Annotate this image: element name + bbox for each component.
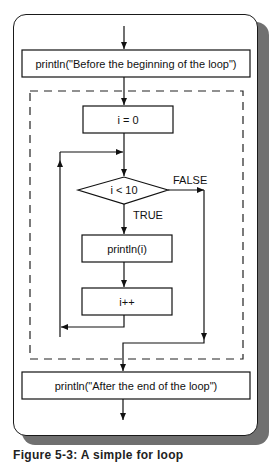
node-before-label: println("Before the beginning of the loo… [35, 58, 236, 70]
node-increment-label: i++ [119, 296, 134, 308]
arrow-increment-loopback [61, 315, 124, 327]
node-condition: i < 10 [78, 177, 168, 204]
node-body: println(i) [82, 235, 172, 262]
node-before: println("Before the beginning of the loo… [22, 50, 250, 77]
figure-caption: Figure 5-3: A simple for loop [13, 448, 184, 462]
node-init-label: i = 0 [117, 114, 138, 126]
label-true: TRUE [133, 209, 163, 221]
node-after: println("After the end of the loop") [22, 372, 250, 399]
node-after-label: println("After the end of the loop") [55, 380, 218, 392]
arrow-to-after [123, 340, 204, 371]
node-body-label: println(i) [107, 243, 147, 255]
node-init: i = 0 [83, 106, 173, 133]
node-condition-label: i < 10 [110, 184, 137, 196]
label-false: FALSE [173, 174, 207, 186]
node-increment: i++ [82, 288, 172, 315]
loopback-up-arrowhead [57, 160, 63, 167]
